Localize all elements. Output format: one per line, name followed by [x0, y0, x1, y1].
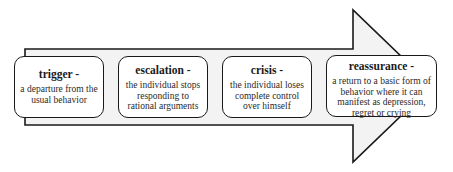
stage-description: a return to a basic form of behavior whe… [330, 76, 433, 118]
stage-title: trigger - [18, 68, 100, 81]
stage-description: a departure from the usual behavior [18, 84, 100, 105]
stage-description: the individual stops responding to ratio… [122, 80, 204, 112]
stage-crisis: crisis - the individual loses complete c… [222, 56, 312, 118]
stage-reassurance: reassurance - a return to a basic form o… [326, 55, 437, 117]
stage-title: reassurance - [330, 60, 433, 73]
stage-title: crisis - [226, 64, 308, 77]
stage-trigger: trigger - a departure from the usual beh… [14, 56, 104, 118]
stage-description: the individual loses complete control ov… [226, 80, 308, 112]
stage-title: escalation - [122, 64, 204, 77]
stage-escalation: escalation - the individual stops respon… [118, 56, 208, 118]
